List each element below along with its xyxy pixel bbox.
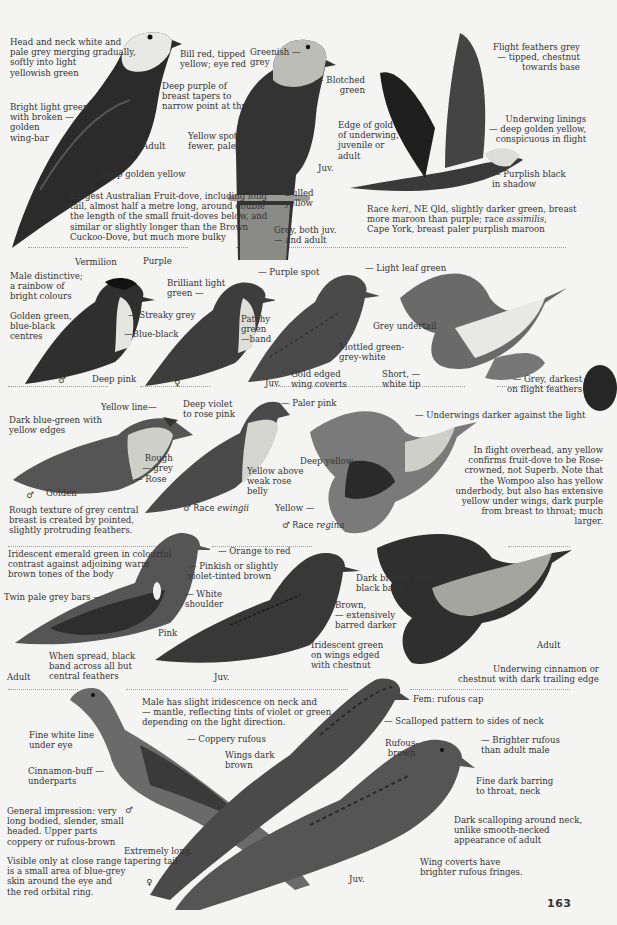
label-general: General impression: very long bodied, sl… xyxy=(7,806,124,847)
label-juv: Juv. xyxy=(214,672,230,682)
label-juv-blotch: — Blotched green xyxy=(315,75,365,95)
race-prefix: ♂ Race xyxy=(183,503,217,513)
label-patchy: Patchy green —band xyxy=(241,314,271,345)
label-juv-head: Greenish — grey xyxy=(250,47,301,67)
label-spread: When spread, black band across all but c… xyxy=(49,651,135,682)
race-keri: keri xyxy=(391,204,408,214)
label-twin-bars: Twin pale grey bars — xyxy=(4,592,102,602)
label-extremely-long: Extremely long, tapering tail xyxy=(124,846,193,866)
race-prefix: ♂ Race xyxy=(282,520,316,530)
wompoo-note: Largest Australian Fruit-dove, including… xyxy=(70,191,267,242)
label-brilliant: Brilliant light green — xyxy=(167,278,225,298)
label-adult-flight: Adult xyxy=(537,640,560,650)
label-wing-coverts: Wing coverts have brighter rufous fringe… xyxy=(420,857,523,877)
label-visible: Visible only at close range is a small a… xyxy=(7,856,125,897)
race-ewingii: ♂ Race ewingii xyxy=(183,503,249,513)
section-divider xyxy=(8,689,78,690)
label-iridescence: Male has slight iridescence on neck and … xyxy=(142,697,331,728)
label-grey-darkest: — Grey, darkest on flight feathers xyxy=(507,374,582,394)
label-underwing-cinnamon: Underwing cinnamon or chestnut with dark… xyxy=(458,664,599,684)
page-number: 163 xyxy=(547,897,571,910)
label-gold-edged: Gold edged wing coverts xyxy=(291,369,347,389)
label-purple: Purple xyxy=(143,256,172,266)
race-name: regina xyxy=(316,520,344,530)
label-juv-edge: Edge of gold of underwing, juvenile or a… xyxy=(338,120,399,161)
label-yellow: Yellow — xyxy=(275,503,314,513)
male-symbol: ♂ xyxy=(26,490,34,500)
label-orange-red: — Orange to red xyxy=(218,546,291,556)
label-rough-grey: Rough — grey xyxy=(142,453,173,473)
female-symbol: ♀ xyxy=(174,378,180,388)
label-white-shoulder: — White shoulder xyxy=(185,589,223,609)
male-symbol: ♂ xyxy=(58,375,66,385)
label-juv-spots: Yellow spots — fewer, paler xyxy=(188,131,253,151)
label-rufous-brown: Rufous- brown xyxy=(385,738,418,758)
label-dark-blue-green: Dark blue-green with yellow edges xyxy=(9,415,102,435)
label-cinnamon: Cinnamon-buff — underparts xyxy=(28,766,104,786)
label-head-neck: Head and neck white and pale grey mergin… xyxy=(10,37,136,78)
label-juv: Juv. xyxy=(265,378,281,388)
race-note-text: Race xyxy=(367,204,391,214)
female-symbol: ♀ xyxy=(146,877,152,887)
label-iridescent: Iridescent emerald green in colourful co… xyxy=(8,549,171,580)
brown-cuckoo-dove-juvenile-illustration xyxy=(170,730,480,915)
label-dark-scalloping: Dark scalloping around neck, unlike smoo… xyxy=(454,815,582,846)
label-brown-barred: Brown, — extensively barred darker xyxy=(335,600,396,631)
label-juv-dulled: Dulled yellow xyxy=(285,188,314,208)
label-bill: Bill red, tipped yellow; eye red xyxy=(180,49,246,69)
label-vent: Deep golden yellow xyxy=(100,169,186,179)
race-assimilis: assimilis xyxy=(507,214,545,224)
label-pink: Pink xyxy=(158,628,177,638)
label-iridescent-juv: Iridescent green on wings edged with che… xyxy=(311,640,383,671)
label-underwing: Underwing linings — deep golden yellow, … xyxy=(489,114,586,145)
texture-note: Rough texture of grey central breast is … xyxy=(9,505,138,536)
label-pinkish: — Pinkish or slightly violet-tinted brow… xyxy=(188,561,278,581)
section-divider xyxy=(410,689,570,690)
label-blue-black: —Blue-black xyxy=(124,329,179,339)
race-regina: ♂ Race regina xyxy=(282,520,344,530)
label-paler-pink: — Paler pink xyxy=(281,398,337,408)
label-deep-pink: Deep pink xyxy=(92,374,136,384)
label-adult: Adult xyxy=(7,672,30,682)
race-note: Race keri, NE Qld, slightly darker green… xyxy=(367,204,576,235)
label-fem-cap: Fem: rufous cap xyxy=(413,694,483,704)
label-rose: — Rose xyxy=(134,474,166,484)
page-thumb-tab xyxy=(583,365,617,411)
label-white-line: Fine white line under eye xyxy=(29,730,94,750)
label-scalloped: — Scalloped pattern to sides of neck xyxy=(384,716,544,726)
flight-note: In flight overhead, any yellow confirms … xyxy=(451,445,603,527)
label-wings-dark: Wings dark brown xyxy=(225,750,275,770)
label-juv: Juv. xyxy=(318,163,334,173)
label-male-distinctive: Male distinctive; a rainbow of bright co… xyxy=(10,271,83,302)
label-mottled: Mottled green- grey-white xyxy=(339,342,404,362)
label-deep-yellow: Deep yellow xyxy=(300,456,353,466)
label-brighter: — Brighter rufous than adult male xyxy=(481,735,560,755)
label-flight-feathers: Flight feathers grey — tipped, chestnut … xyxy=(493,42,580,73)
race-name: ewingii xyxy=(217,503,249,513)
label-juv-tail: Grey, both juv. — and adult xyxy=(274,225,336,245)
label-light-leaf: — Light leaf green xyxy=(365,263,446,273)
label-juv: Juv. xyxy=(349,874,365,884)
label-coppery: — Coppery rufous xyxy=(187,734,266,744)
label-yellow-above: Yellow above weak rose belly xyxy=(247,466,304,497)
label-wing: Bright light green with broken — golden … xyxy=(10,102,88,143)
male-symbol: ♂ xyxy=(125,805,133,815)
label-streaky: — Streaky grey xyxy=(128,310,195,320)
label-fine-barring: Fine dark barring to throat, neck xyxy=(476,776,553,796)
label-dark-brown: Dark brown, with black band xyxy=(356,573,432,593)
label-purple-spot: — Purple spot xyxy=(258,267,319,277)
label-vermilion: Vermilion xyxy=(75,257,117,267)
label-golden-green: Golden green, blue-black centres xyxy=(10,311,72,342)
label-grey-undertail: Grey undertail xyxy=(373,321,436,331)
label-yellow-line: Yellow line— xyxy=(101,402,156,412)
label-breast: Deep purple of breast tapers to narrow p… xyxy=(162,81,262,112)
label-adult: Adult xyxy=(142,141,165,151)
label-purplish: — Purplish black in shadow xyxy=(492,169,566,189)
label-short-tip: Short, — white tip xyxy=(382,369,421,389)
label-deep-violet: Deep violet to rose pink xyxy=(183,399,235,419)
label-golden: Golden xyxy=(46,488,77,498)
label-underwings-darker: — Underwings darker against the light xyxy=(415,410,585,420)
